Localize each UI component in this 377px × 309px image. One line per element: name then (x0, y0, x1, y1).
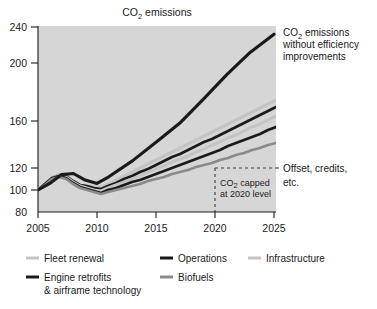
x-tick-label: 2010 (85, 222, 109, 234)
baseline-annotation: CO2 emissions without efficiency improve… (282, 27, 359, 62)
x-tick-label: 2025 (262, 222, 286, 234)
offset-annotation: Offset, credits, etc. (283, 163, 347, 188)
x-axis-ticks: 2005 2010 2015 2020 2025 (26, 212, 286, 234)
y-tick-label: 120 (9, 162, 27, 174)
y-axis-ticks: 240 200 160 120 100 80 (9, 21, 38, 218)
legend-label: Operations (178, 253, 227, 264)
legend-label-continued: & airframe technology (44, 285, 141, 296)
cap-annotation: CO2 capped at 2020 level (220, 178, 271, 199)
legend-label: Engine retrofits (44, 272, 111, 283)
legend-label: Biofuels (178, 272, 214, 283)
baseline-annotation-line2: without efficiency (282, 39, 359, 50)
y-tick-label: 80 (15, 206, 27, 218)
cap-annotation-line2: at 2020 level (220, 189, 271, 199)
offset-annotation-line2: etc. (283, 177, 299, 188)
x-tick-label: 2005 (26, 222, 50, 234)
x-tick-label: 2020 (203, 222, 227, 234)
chart-legend: Fleet renewalOperationsInfrastructureEng… (26, 253, 325, 296)
legend-label: Infrastructure (266, 253, 325, 264)
y-tick-label: 100 (9, 184, 27, 196)
baseline-annotation-line3: improvements (283, 51, 346, 62)
co2-emissions-chart: CO2 emissions 240 200 160 120 100 80 200 (0, 0, 377, 309)
y-tick-label: 200 (9, 57, 27, 69)
chart-container: CO2 emissions 240 200 160 120 100 80 200 (0, 0, 377, 309)
legend-label: Fleet renewal (44, 253, 104, 264)
x-tick-label: 2015 (144, 222, 168, 234)
y-tick-label: 160 (9, 115, 27, 127)
offset-annotation-line1: Offset, credits, (283, 163, 347, 174)
y-tick-label: 240 (9, 21, 27, 33)
chart-title: CO2 emissions (122, 6, 192, 21)
